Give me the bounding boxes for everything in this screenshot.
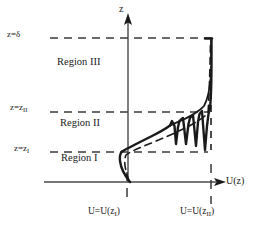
tick-label-z-zII-sub: II <box>23 106 27 113</box>
tick-label-z-delta: z=δ <box>7 30 20 39</box>
tick-label-z-zII-main: z=z <box>10 102 23 112</box>
region-label-three: Region III <box>57 57 100 68</box>
region-label-two: Region II <box>60 118 100 129</box>
tick-label-z-zII: z=zII <box>10 103 27 113</box>
x-tick-label-u-zII: U=U(zII) <box>180 207 214 218</box>
x-tick-label-u-zI-main: U=U(z <box>88 206 114 216</box>
tick-label-z-zI-main: z=z <box>14 143 27 153</box>
tick-label-z-zI-sub: I <box>27 147 29 154</box>
u-axis <box>44 178 226 186</box>
x-tick-label-u-zII-main: U=U(z <box>180 206 206 216</box>
velocity-profile-diagram <box>0 0 258 228</box>
x-tick-label-u-zII-tail: ) <box>211 206 214 216</box>
tick-label-z-zI: z=zI <box>14 144 29 154</box>
region-label-one: Region I <box>61 153 97 164</box>
z-axis-label: z <box>119 4 123 14</box>
x-tick-label-u-zI: U=U(zI) <box>88 207 120 218</box>
u-axis-label: U(z) <box>226 176 244 186</box>
x-tick-label-u-zI-tail: ) <box>117 206 120 216</box>
profile-oscillations <box>170 108 210 150</box>
